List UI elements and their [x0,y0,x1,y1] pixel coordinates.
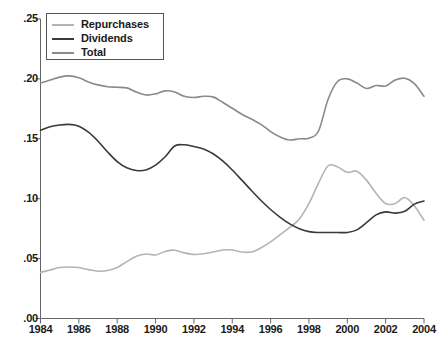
legend-item-repurchases: Repurchases [52,18,163,31]
legend-label-total: Total [81,47,106,58]
legend-swatch-total [52,52,74,54]
legend-swatch-dividends [52,38,74,40]
legend-label-dividends: Dividends [81,33,133,44]
chart-legend: Repurchases Dividends Total [46,13,164,60]
legend-item-dividends: Dividends [52,32,163,45]
legend-label-repurchases: Repurchases [81,19,149,30]
legend-swatch-repurchases [52,24,74,26]
x-tick-label: 2004 [402,324,441,335]
legend-item-total: Total [52,46,163,59]
